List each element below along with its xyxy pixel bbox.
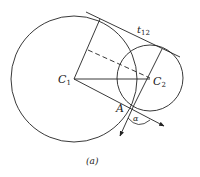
- figure-caption: (a): [86, 156, 99, 166]
- label-point-a: A: [115, 102, 124, 115]
- angle-arc-alpha: [128, 118, 150, 125]
- geometry-figure: C1 C2 A t12 α (a): [0, 0, 200, 177]
- label-angle-alpha: α: [133, 114, 139, 123]
- radius-c1: [74, 19, 100, 79]
- label-c1: C1: [58, 73, 71, 87]
- tangent-line-t12: [86, 12, 180, 57]
- label-tangent-t12: t12: [137, 24, 150, 37]
- dashed-parallel: [88, 50, 150, 78]
- diagram-canvas: C1 C2 A t12 α (a): [0, 0, 200, 177]
- label-c2: C2: [153, 75, 166, 89]
